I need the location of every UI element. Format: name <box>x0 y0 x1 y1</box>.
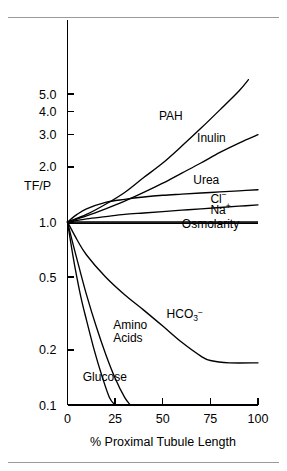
series-label-amino-acids: AminoAcids <box>113 318 147 345</box>
y-tick-label-5.0: 5.0 <box>39 88 56 102</box>
x-axis-tick-labels: 0255075100 <box>64 412 268 426</box>
series-label-osmolarity: Osmolarity <box>182 217 239 231</box>
y-axis-ticks <box>68 94 74 405</box>
chart-curves <box>68 80 259 405</box>
x-tick-label-50: 50 <box>156 412 170 426</box>
x-axis-ticks <box>68 398 259 405</box>
x-tick-label-75: 75 <box>203 412 217 426</box>
series-inline-labels: PAHInulinUreaCl−Na+OsmolarityHCO3−AminoA… <box>83 109 239 384</box>
x-tick-label-0: 0 <box>64 412 71 426</box>
y-axis-title: TF/P <box>24 179 51 193</box>
y-axis-tick-labels: 5.04.03.02.01.00.50.20.1 <box>39 88 56 413</box>
series-label-urea: Urea <box>193 173 219 187</box>
tf-p-line-chart: 5.04.03.02.01.00.50.20.1 0255075100 TF/P… <box>0 0 287 471</box>
curve-hco3 <box>68 222 259 363</box>
chart-figure: 5.04.03.02.01.00.50.20.1 0255075100 TF/P… <box>0 0 287 471</box>
y-tick-label-0.1: 0.1 <box>39 399 56 413</box>
y-tick-label-0.2: 0.2 <box>39 343 56 357</box>
series-label-inulin: Inulin <box>197 131 226 145</box>
series-label-hco3: HCO3− <box>167 307 203 323</box>
series-label-na: Na+ <box>210 201 230 217</box>
y-tick-label-1.0: 1.0 <box>39 216 56 230</box>
series-label-glucose: Glucose <box>83 370 127 384</box>
series-label-pah: PAH <box>159 109 183 123</box>
y-tick-label-0.5: 0.5 <box>39 271 56 285</box>
x-tick-label-25: 25 <box>108 412 122 426</box>
x-tick-label-100: 100 <box>248 412 269 426</box>
y-tick-label-2.0: 2.0 <box>39 160 56 174</box>
x-axis-title: % Proximal Tubule Length <box>90 435 236 449</box>
y-tick-label-4.0: 4.0 <box>39 105 56 119</box>
y-tick-label-3.0: 3.0 <box>39 128 56 142</box>
